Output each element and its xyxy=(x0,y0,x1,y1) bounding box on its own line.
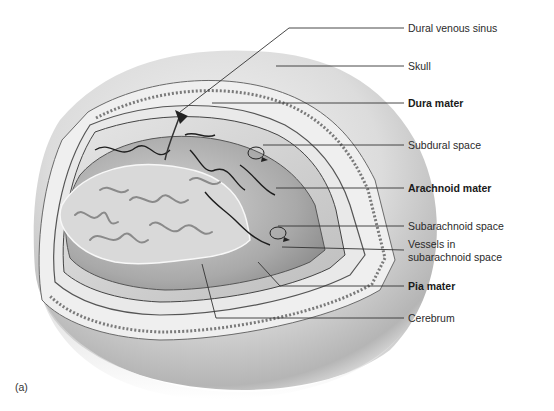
panel-label: (a) xyxy=(15,381,28,393)
label-subdural-space: Subdural space xyxy=(408,139,481,151)
label-vessels-line1: Vessels in xyxy=(408,238,455,250)
label-skull: Skull xyxy=(408,60,431,72)
label-arachnoid-mater: Arachnoid mater xyxy=(408,182,491,194)
meninges-diagram: Dural venous sinus Skull Dura mater Subd… xyxy=(0,0,554,411)
label-vessels-line2: subarachnoid space xyxy=(408,251,502,263)
label-dural-venous-sinus: Dural venous sinus xyxy=(408,22,497,34)
illustration xyxy=(0,0,554,411)
label-subarachnoid-space: Subarachnoid space xyxy=(408,220,504,232)
label-pia-mater: Pia mater xyxy=(408,280,455,292)
label-cerebrum: Cerebrum xyxy=(408,312,455,324)
label-dura-mater: Dura mater xyxy=(408,97,463,109)
